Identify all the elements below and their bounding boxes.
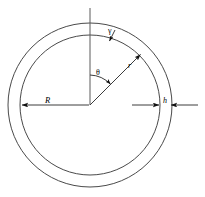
annular-ring-figure: R r h γ θ: [0, 0, 205, 197]
figure-canvas: [0, 0, 205, 197]
theta-angle-arc: [90, 75, 111, 84]
label-outer-radius-R: R: [45, 96, 50, 105]
radial-coordinate-arrow: [90, 55, 141, 106]
label-radial-coordinate-r: r: [128, 62, 131, 70]
label-gamma: γ: [108, 27, 112, 35]
label-theta: θ: [96, 69, 100, 77]
label-thickness-h: h: [163, 97, 167, 105]
